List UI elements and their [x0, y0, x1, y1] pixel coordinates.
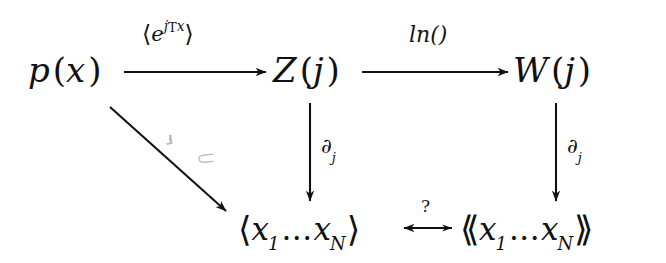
node-moments-var2: x	[314, 211, 331, 247]
node-cumulants-dots: ...	[508, 211, 541, 247]
edge-label-e-base: e	[151, 22, 163, 46]
node-w-of-j-paren-close: )	[575, 50, 591, 90]
node-moments-dots: ...	[280, 211, 313, 247]
node-z-of-j-paren-close: )	[323, 50, 339, 90]
edge-label-bracket-open: ⟨	[142, 20, 151, 48]
node-moments-sub-last: N	[330, 233, 346, 254]
node-p-of-x-arg: x	[66, 50, 85, 90]
node-z-of-j-arg: j	[313, 50, 324, 90]
edge-label-partial-j-left: ∂j	[321, 136, 336, 160]
node-cumulants-bracket-close: ⟫	[574, 209, 593, 249]
edge-label-expectation-exp: ⟨ejTx⟩	[142, 22, 194, 46]
edge-label-bracket-close: ⟩	[184, 20, 193, 48]
node-z-of-j-base: Z	[273, 50, 297, 90]
node-cumulants-bracket-open: ⟪	[460, 209, 479, 249]
node-p-of-x-base: p	[28, 50, 50, 90]
node-moments-bracket-close: ⟩	[347, 209, 361, 249]
node-w-of-j-paren-open: (	[548, 50, 564, 90]
node-cumulants-var2: x	[541, 211, 558, 247]
edge-label-partial-sub-left: j	[332, 150, 336, 165]
node-p-of-x[interactable]: p(x)	[28, 53, 101, 87]
edge-label-question-mark: ?	[421, 198, 430, 215]
node-w-of-j[interactable]: W(j)	[513, 53, 591, 87]
edge-label-partial-symbol-left: ∂	[321, 134, 332, 158]
node-cumulants-sub-first: 1	[495, 233, 506, 254]
node-moments-var1: x	[252, 211, 269, 247]
edge-label-sup-transpose: T	[168, 20, 177, 35]
diagram-canvas: p(x) Z(j) W(j) ⟨x1...xN⟩ ⟪x1...xN⟫ ⟨ejTx…	[0, 0, 666, 263]
node-w-of-j-arg: j	[564, 50, 575, 90]
node-p-of-x-paren-close: )	[85, 50, 101, 90]
node-cumulants[interactable]: ⟪x1...xN⟫	[460, 211, 593, 250]
node-cumulants-var1: x	[479, 211, 496, 247]
edge-label-ln: ln()	[409, 24, 447, 46]
edge-label-partial-symbol-right: ∂	[567, 134, 578, 158]
node-w-of-j-base: W	[513, 50, 548, 90]
node-moments[interactable]: ⟨x1...xN⟩	[238, 211, 360, 250]
node-moments-bracket-open: ⟨	[238, 209, 252, 249]
edge-label-diagonal-bracket-open: ⸥	[161, 117, 174, 148]
node-cumulants-sub-last: N	[557, 233, 573, 254]
edge-label-diagonal-bracket-close: ⸦	[191, 139, 221, 178]
node-z-of-j-paren-open: (	[297, 50, 313, 90]
node-p-of-x-paren-open: (	[50, 50, 66, 90]
edge-label-partial-sub-right: j	[578, 150, 582, 165]
edge-label-partial-j-right: ∂j	[567, 136, 582, 160]
node-moments-sub-first: 1	[268, 233, 279, 254]
node-z-of-j[interactable]: Z(j)	[273, 53, 340, 87]
